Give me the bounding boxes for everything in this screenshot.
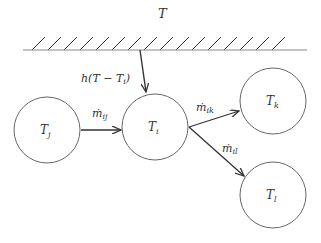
hatch-stroke	[128, 37, 141, 50]
hatch-stroke	[32, 37, 45, 50]
node-temperature-label: Tl	[266, 188, 277, 204]
node-temperature-label: Ti	[148, 120, 159, 136]
node-temperature-label: Tk	[266, 94, 279, 110]
hatch-stroke	[224, 37, 237, 50]
hatch-stroke	[96, 37, 109, 50]
hatch-stroke	[48, 37, 61, 50]
hatch-stroke	[80, 37, 93, 50]
hatch-stroke	[240, 37, 253, 50]
hatch-stroke	[64, 37, 77, 50]
hatch-stroke	[256, 37, 269, 50]
hatch-stroke	[192, 37, 205, 50]
node-j: Tj	[14, 97, 80, 163]
hatch-stroke	[272, 37, 285, 50]
hatch-stroke	[176, 37, 189, 50]
wall-hatching	[32, 37, 285, 50]
diagram-svg: T h(T − Ti) TjTiTkTl ṁijṁikṁil	[0, 0, 321, 243]
mass-flow-label: ṁil	[222, 142, 238, 156]
hatch-stroke	[160, 37, 173, 50]
hatch-stroke	[144, 37, 157, 50]
node-i: Ti	[122, 94, 188, 160]
node-k: Tk	[240, 68, 306, 134]
node-l: Tl	[240, 162, 306, 228]
mass-flow-label: ṁij	[92, 107, 108, 121]
node-temperature-label: Tj	[40, 123, 51, 139]
hatch-stroke	[208, 37, 221, 50]
mass-flow-il: ṁil	[189, 127, 244, 176]
mass-flow-ik: ṁik	[189, 101, 239, 127]
heat-flux-arrow	[140, 50, 146, 92]
mass-flow-label: ṁik	[196, 101, 214, 115]
heat-flux-label: h(T − Ti)	[81, 72, 130, 86]
hatch-stroke	[112, 37, 125, 50]
mass-flow-ij: ṁij	[81, 107, 121, 130]
diagram-canvas: T h(T − Ti) TjTiTkTl ṁijṁikṁil	[0, 0, 321, 243]
ambient-temperature-label: T	[158, 6, 168, 21]
